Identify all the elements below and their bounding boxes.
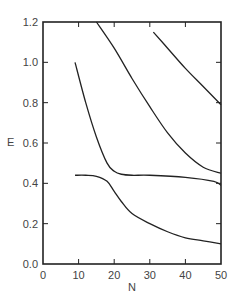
- x-tick-label: 30: [144, 269, 156, 281]
- y-tick-label: 1.2: [23, 16, 38, 28]
- plot-frame: [43, 22, 221, 264]
- y-tick-label: 0.6: [23, 137, 38, 149]
- series-line-curve-1: [153, 32, 221, 105]
- series-line-curve-3: [75, 62, 221, 185]
- axes: 010203040500.00.20.40.60.81.01.2: [23, 16, 227, 281]
- y-tick-label: 1.0: [23, 56, 38, 68]
- y-tick-label: 0.2: [23, 218, 38, 230]
- plot-area: [75, 22, 221, 244]
- y-tick-label: 0.0: [23, 258, 38, 270]
- x-tick-label: 10: [72, 269, 84, 281]
- x-tick-label: 40: [179, 269, 191, 281]
- x-tick-label: 50: [215, 269, 227, 281]
- chart: 010203040500.00.20.40.60.81.01.2 N E: [0, 0, 234, 303]
- y-tick-label: 0.4: [23, 177, 38, 189]
- series-line-curve-4: [75, 175, 221, 244]
- y-axis-label: E: [7, 136, 14, 148]
- x-axis-label: N: [128, 281, 136, 293]
- y-tick-label: 0.8: [23, 97, 38, 109]
- series-line-curve-2: [96, 22, 221, 173]
- x-tick-label: 20: [108, 269, 120, 281]
- x-tick-label: 0: [40, 269, 46, 281]
